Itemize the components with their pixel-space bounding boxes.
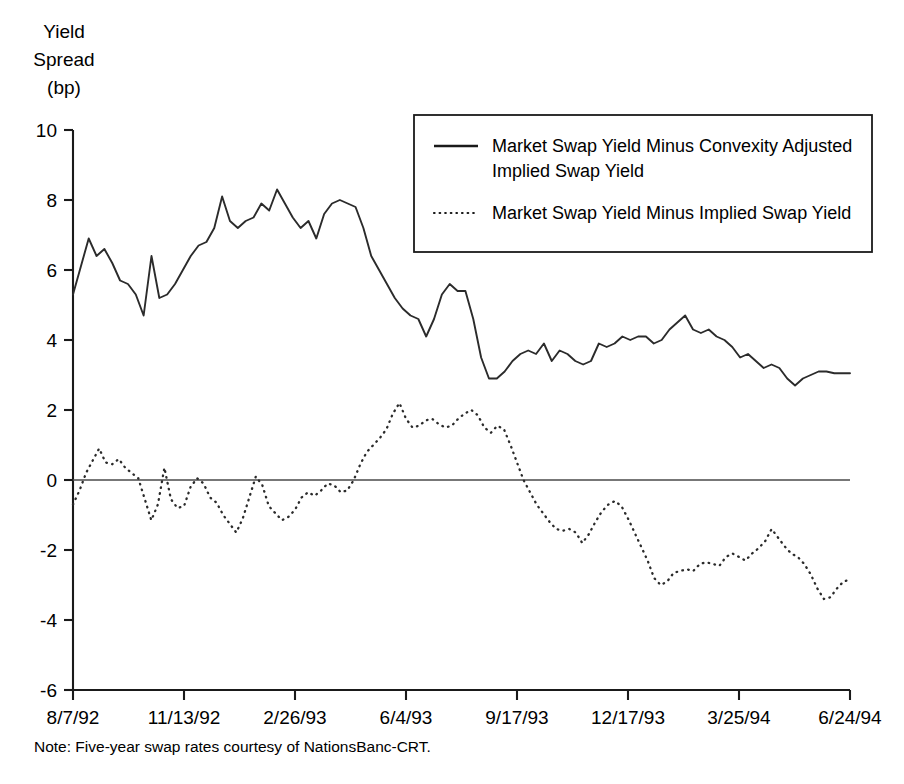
- x-tick-label: 12/17/93: [591, 707, 665, 728]
- y-tick-label: 8: [46, 190, 57, 211]
- legend-entry-0-line-1: Market Swap Yield Minus Convexity Adjust…: [492, 136, 852, 156]
- x-tick-label: 3/25/94: [707, 707, 771, 728]
- y-tick-label: -2: [40, 540, 57, 561]
- x-axis: 8/7/9211/13/922/26/936/4/939/17/9312/17/…: [47, 690, 883, 728]
- legend-entry-0-line-2: Implied Swap Yield: [492, 161, 644, 181]
- series-line-1: [73, 403, 850, 599]
- chart-legend: Market Swap Yield Minus Convexity Adjust…: [414, 115, 872, 252]
- x-tick-label: 8/7/92: [47, 707, 100, 728]
- data-series-group: [73, 190, 850, 600]
- y-axis-title-line-1: Yield: [43, 21, 85, 42]
- y-tick-label: -6: [40, 680, 57, 701]
- y-tick-label: 10: [36, 120, 57, 141]
- x-tick-label: 9/17/93: [485, 707, 548, 728]
- legend-entry-1-line-1: Market Swap Yield Minus Implied Swap Yie…: [492, 203, 851, 223]
- x-tick-label: 2/26/93: [263, 707, 326, 728]
- y-tick-label: 4: [46, 330, 57, 351]
- y-axis: 1086420-2-4-6: [36, 120, 73, 701]
- y-axis-title-line-3: (bp): [47, 77, 81, 98]
- x-tick-label: 6/4/93: [380, 707, 433, 728]
- y-tick-label: 0: [46, 470, 57, 491]
- y-axis-title-line-2: Spread: [33, 49, 94, 70]
- yield-spread-chart: Yield Spread (bp) 1086420-2-4-6 8/7/9211…: [0, 0, 904, 784]
- footnote: Note: Five-year swap rates courtesy of N…: [34, 738, 431, 755]
- y-tick-label: -4: [40, 610, 57, 631]
- y-tick-label: 6: [46, 260, 57, 281]
- x-tick-label: 6/24/94: [818, 707, 882, 728]
- y-tick-label: 2: [46, 400, 57, 421]
- x-tick-label: 11/13/92: [148, 707, 221, 728]
